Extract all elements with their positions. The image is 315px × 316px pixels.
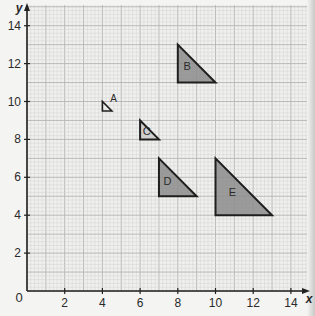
triangle-label: E <box>229 186 236 198</box>
origin-label: 0 <box>15 290 22 305</box>
y-tick-label: 8 <box>14 132 21 146</box>
x-tick-label: 14 <box>284 296 298 310</box>
y-tick-label: 6 <box>14 170 21 184</box>
y-tick-label: 12 <box>8 57 22 71</box>
triangle-label: A <box>110 93 117 104</box>
triangle-label: D <box>163 175 171 187</box>
x-tick-label: 6 <box>137 296 144 310</box>
triangle-label: C <box>143 125 151 137</box>
page-edge-shadow <box>307 0 315 316</box>
coordinate-grid-figure: ABCDE x y 0 2468101214 2468101214 <box>0 0 315 316</box>
grid-background <box>27 5 307 291</box>
x-tick-label: 10 <box>209 296 223 310</box>
x-tick-label: 2 <box>61 296 68 310</box>
y-axis-label: y <box>15 1 24 15</box>
y-tick-label: 2 <box>14 246 21 260</box>
y-tick-label: 14 <box>8 19 22 33</box>
y-tick-label: 4 <box>14 208 21 222</box>
x-tick-label: 4 <box>99 296 106 310</box>
x-tick-label: 8 <box>174 296 181 310</box>
y-tick-label: 10 <box>8 95 22 109</box>
x-tick-label: 12 <box>247 296 261 310</box>
triangle-label: B <box>184 60 191 72</box>
